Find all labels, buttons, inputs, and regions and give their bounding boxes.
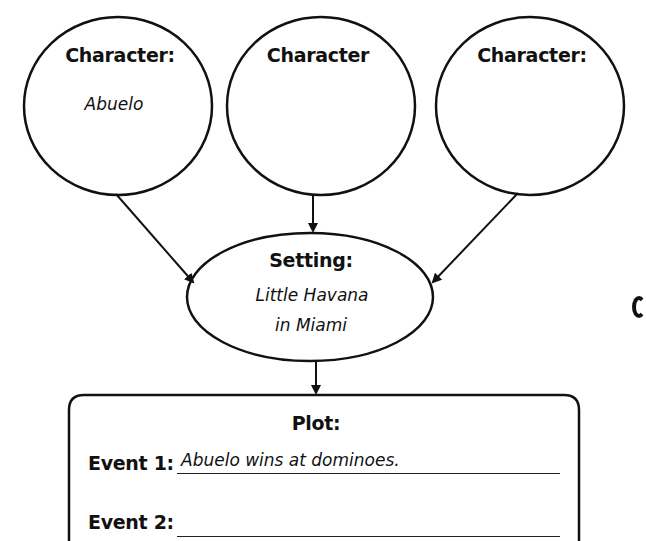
arrow-character-3-to-setting [433, 193, 518, 282]
arrow-character-1-to-setting [116, 194, 193, 282]
event-1-value: Abuelo wins at dominoes. [181, 450, 400, 470]
character-1-label: Character: [65, 44, 175, 66]
event-1-label: Event 1: [88, 452, 174, 474]
event-2-label: Event 2: [88, 511, 174, 533]
plot-label: Plot: [292, 412, 341, 434]
character-1-value[interactable]: Abuelo [85, 94, 144, 114]
setting-value-line-2[interactable]: in Miami [275, 315, 347, 335]
character-3-label: Character: [477, 44, 587, 66]
event-2-line[interactable] [177, 514, 560, 537]
setting-label: Setting: [269, 249, 353, 271]
setting-value-line-1[interactable]: Little Havana [256, 285, 369, 305]
cropped-glyph [632, 296, 646, 318]
character-2-label: Character [267, 44, 369, 66]
event-1-line[interactable]: Abuelo wins at dominoes. [177, 451, 560, 474]
